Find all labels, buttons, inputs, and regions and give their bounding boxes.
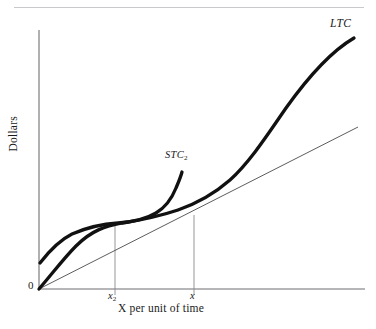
y-axis-label: Dollars <box>8 102 20 166</box>
x-tick-label-x-base: x <box>190 290 195 301</box>
x-tick-label-x2-subscript: 2 <box>113 295 117 303</box>
ltc-curve <box>39 38 354 289</box>
ltc-curve-label-base: LTC <box>330 17 351 29</box>
x-axis-label: X per unit of time <box>118 303 204 315</box>
figure-container: Dollars X per unit of time 0 x2 x LTC ST… <box>0 0 376 329</box>
ltc-curve-label: LTC <box>330 18 351 30</box>
stc2-curve-label-subscript: 2 <box>184 154 188 162</box>
stc2-curve-label: STC2 <box>165 150 188 162</box>
tangent-ray-from-origin <box>39 127 358 289</box>
x-tick-label-x: x <box>190 291 195 302</box>
stc2-curve <box>40 172 182 263</box>
origin-label: 0 <box>28 280 34 291</box>
cost-curves-plot <box>0 0 376 329</box>
stc2-curve-label-base: STC <box>165 149 184 160</box>
x-tick-label-x2: x2 <box>108 291 116 303</box>
